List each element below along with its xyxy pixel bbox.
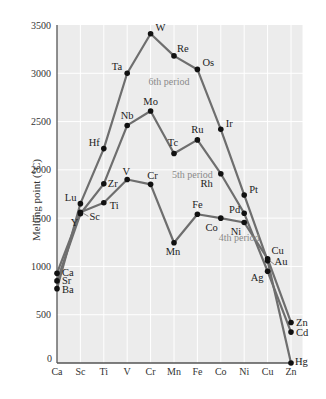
- data-point: [171, 240, 177, 246]
- data-point: [195, 67, 201, 73]
- y-axis-label: Melting point (°C): [30, 159, 43, 241]
- x-tick-label: Fe: [192, 366, 203, 377]
- data-point: [171, 151, 177, 157]
- element-label: W: [156, 22, 166, 33]
- period-label: 5th period: [172, 169, 213, 180]
- data-point: [241, 220, 247, 226]
- y-tick-label: 0: [47, 353, 52, 364]
- element-label: Ag: [251, 272, 265, 283]
- element-label: Ru: [191, 124, 204, 135]
- data-point: [265, 268, 271, 274]
- element-label: Cr: [147, 170, 158, 181]
- x-tick-label: Ca: [51, 366, 63, 377]
- data-point: [218, 171, 224, 177]
- x-tick-label: Co: [215, 366, 227, 377]
- data-point: [124, 70, 130, 76]
- y-tick-label: 500: [36, 309, 51, 320]
- melting-point-chart: 0500100015002000250030003500 CaScTiVCrMn…: [0, 0, 326, 399]
- element-label: V: [122, 166, 130, 177]
- x-tick-label: Ti: [100, 366, 109, 377]
- element-label: Tc: [168, 137, 179, 148]
- y-tick-label: 2500: [31, 116, 51, 127]
- x-tick-label: Cr: [146, 366, 157, 377]
- element-label: Nb: [121, 110, 134, 121]
- data-point: [54, 286, 60, 292]
- data-point: [241, 211, 247, 217]
- x-tick-label: V: [124, 366, 132, 377]
- period-label: 4th period: [219, 232, 260, 243]
- element-label: Zr: [108, 178, 118, 189]
- data-point: [288, 320, 294, 326]
- element-label: Os: [202, 57, 214, 68]
- x-tick-label: Cu: [262, 366, 274, 377]
- data-point: [101, 146, 107, 152]
- data-point: [241, 192, 247, 198]
- element-label: Ir: [226, 118, 233, 129]
- data-point: [78, 201, 84, 207]
- element-label: Cu: [272, 245, 285, 256]
- element-label: Co: [206, 222, 218, 233]
- y-tick-label: 1000: [31, 261, 51, 272]
- element-label: Pt: [249, 184, 258, 195]
- period-label: 6th period: [149, 76, 190, 87]
- data-point: [148, 31, 154, 37]
- x-tick-labels: CaScTiVCrMnFeCoNiCuZn: [51, 366, 296, 377]
- data-point: [195, 137, 201, 143]
- data-point: [54, 270, 60, 276]
- x-tick-label: Zn: [285, 366, 296, 377]
- data-point: [265, 258, 271, 264]
- data-point: [101, 200, 107, 206]
- element-label: Re: [177, 43, 189, 54]
- element-label: Ta: [112, 61, 123, 72]
- element-label: Cd: [296, 327, 309, 338]
- data-point: [78, 211, 84, 217]
- element-label: Y: [71, 217, 79, 228]
- data-point: [171, 53, 177, 59]
- y-tick-label: 3500: [31, 20, 51, 31]
- data-point: [54, 278, 60, 284]
- x-tick-label: Mn: [167, 366, 181, 377]
- x-tick-label: Ni: [239, 366, 249, 377]
- element-label: Mn: [166, 246, 181, 257]
- data-point: [218, 126, 224, 132]
- data-point: [101, 181, 107, 187]
- y-tick-label: 3000: [31, 68, 51, 79]
- data-point: [218, 215, 224, 221]
- data-point: [124, 177, 130, 183]
- x-tick-label: Sc: [75, 366, 86, 377]
- data-point: [148, 182, 154, 188]
- element-label: Hg: [295, 356, 309, 367]
- element-label: Ba: [62, 284, 74, 295]
- data-point: [288, 360, 294, 366]
- data-point: [148, 108, 154, 114]
- data-point: [288, 329, 294, 335]
- data-point: [124, 123, 130, 129]
- data-point: [195, 211, 201, 217]
- element-label: Hf: [89, 137, 101, 148]
- element-label: Au: [275, 256, 289, 267]
- element-label: Ti: [110, 200, 119, 211]
- element-label: Fe: [192, 199, 203, 210]
- element-label: Sc: [89, 211, 100, 222]
- element-label: Pd: [229, 204, 241, 215]
- element-label: Mo: [143, 96, 158, 107]
- element-label: Lu: [65, 192, 77, 203]
